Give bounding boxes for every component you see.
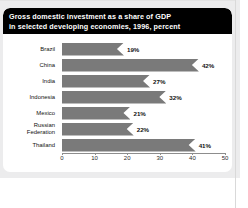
x-axis-tick-label: 30: [156, 155, 163, 161]
bar: [62, 75, 150, 88]
category-label: Thailand: [3, 137, 58, 153]
category-label-line: Brazil: [40, 46, 55, 53]
category-label-line: Federation: [27, 129, 55, 136]
bar-row: Brazil19%: [3, 41, 232, 57]
bar-track: 42%: [62, 59, 232, 72]
x-axis-tick-label: 10: [91, 155, 98, 161]
bar-track: 41%: [62, 139, 232, 152]
backdrop-top-rule: [0, 0, 236, 1]
bar: [62, 107, 130, 120]
x-axis-line: [62, 153, 225, 154]
x-axis-tick-label: 50: [222, 155, 229, 161]
category-label: India: [3, 73, 58, 89]
chart-figure: Gross domestic investment as a share of …: [3, 8, 232, 172]
bar-value-label: 21%: [133, 107, 145, 120]
bar-track: 32%: [62, 91, 232, 104]
chart-plot-area: Brazil19%China42%India27%Indonesia32%Mex…: [3, 34, 232, 172]
bar-value-label: 32%: [169, 91, 181, 104]
category-label-line: China: [40, 62, 55, 69]
category-label: Brazil: [3, 41, 58, 57]
bar-track: 21%: [62, 107, 232, 120]
category-label: Mexico: [3, 105, 58, 121]
bar-track: 22%: [62, 123, 232, 136]
bar-row: India27%: [3, 73, 232, 89]
category-label-line: Mexico: [36, 110, 55, 117]
bar: [62, 139, 196, 152]
bar-value-label: 41%: [199, 139, 211, 152]
bar-track: 27%: [62, 75, 232, 88]
chart-title-line-2: in selected developing economies, 1996, …: [9, 22, 226, 32]
category-label-line: India: [42, 78, 55, 85]
backdrop-right-rule: [235, 0, 236, 208]
bar-value-label: 42%: [202, 59, 214, 72]
bar-row: China42%: [3, 57, 232, 73]
bar: [62, 43, 124, 56]
category-label-line: Thailand: [32, 142, 55, 149]
category-label: RussianFederation: [3, 121, 58, 137]
category-label: Indonesia: [3, 89, 58, 105]
chart-title-line-1: Gross domestic investment as a share of …: [9, 12, 226, 22]
bar-rows: Brazil19%China42%India27%Indonesia32%Mex…: [3, 41, 232, 153]
x-axis-tick-label: 40: [189, 155, 196, 161]
chart-title-bar: Gross domestic investment as a share of …: [3, 8, 232, 34]
bar: [62, 123, 134, 136]
bar: [62, 59, 199, 72]
bar-value-label: 22%: [137, 123, 149, 136]
category-label-line: Indonesia: [29, 94, 55, 101]
bar-value-label: 19%: [127, 43, 139, 56]
x-axis-ticks: 01020304050: [3, 155, 232, 167]
x-axis-tick-label: 0: [60, 155, 63, 161]
bar-track: 19%: [62, 43, 232, 56]
bar-row: RussianFederation22%: [3, 121, 232, 137]
bar: [62, 91, 166, 104]
bar-row: Thailand41%: [3, 137, 232, 153]
bar-row: Mexico21%: [3, 105, 232, 121]
bar-row: Indonesia32%: [3, 89, 232, 105]
category-label-line: Russian: [34, 122, 55, 129]
x-axis-tick-label: 20: [124, 155, 131, 161]
bar-value-label: 27%: [153, 75, 165, 88]
category-label: China: [3, 57, 58, 73]
